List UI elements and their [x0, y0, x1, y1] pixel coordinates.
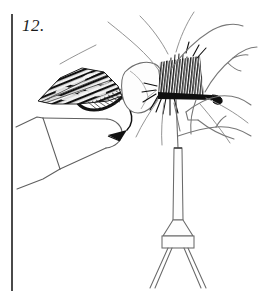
mottled-quill-wing: [30, 60, 130, 111]
tying-thread: [176, 99, 178, 148]
bobbin-tool: [150, 148, 206, 288]
illustration-artwork: [0, 0, 259, 291]
dubbed-body: [122, 62, 163, 113]
figure-panel: 12.: [0, 0, 259, 291]
left-hand-fingers: [16, 117, 122, 189]
